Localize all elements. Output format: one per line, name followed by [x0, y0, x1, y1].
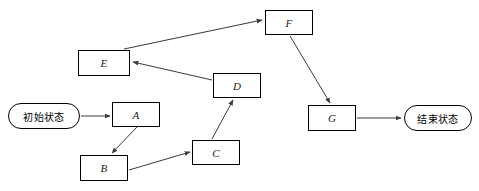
node-c-label: C [212, 147, 220, 159]
diagram-canvas: 初始状态 A B C D E F G 结束状态 [0, 0, 479, 191]
edge-D-to-E [133, 62, 212, 80]
edge-F-to-G [290, 36, 330, 103]
node-end-label: 结束状态 [417, 111, 459, 126]
node-start-label: 初始状态 [23, 109, 65, 124]
node-e-label: E [101, 57, 108, 69]
node-g-label: G [328, 112, 336, 124]
node-f-label: F [286, 17, 293, 29]
node-c[interactable]: C [192, 140, 240, 165]
edge-A-to-B [112, 127, 137, 153]
node-g[interactable]: G [308, 105, 356, 131]
edge-E-to-F [124, 20, 262, 49]
edge-B-to-C [129, 152, 190, 170]
node-b-label: B [101, 162, 108, 174]
node-e[interactable]: E [78, 50, 130, 76]
node-d-label: D [233, 80, 241, 92]
node-start[interactable]: 初始状态 [8, 103, 80, 129]
node-b[interactable]: B [80, 155, 128, 181]
node-a[interactable]: A [112, 102, 160, 127]
node-a-label: A [133, 109, 140, 121]
node-d[interactable]: D [213, 73, 261, 98]
node-f[interactable]: F [265, 10, 313, 35]
edge-C-to-D [212, 100, 233, 139]
node-end[interactable]: 结束状态 [404, 105, 472, 131]
